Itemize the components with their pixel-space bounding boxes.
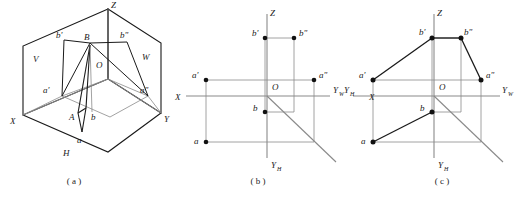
panel-c-projectors xyxy=(373,38,481,142)
panel-c-points xyxy=(371,36,484,145)
panel-b-point-a-prime xyxy=(204,78,209,83)
panel-c-label-a-prime: a' xyxy=(359,70,367,80)
panel-b-label-a: a xyxy=(194,136,199,146)
panel-c-point-b-prime xyxy=(430,36,435,41)
panel-c-label-a: a xyxy=(361,136,366,146)
panel-c-label-Y-H-left-sub: H xyxy=(349,91,355,97)
panel-a-label-b-prime: b' xyxy=(56,30,64,40)
panel-a-label-a-prime: a' xyxy=(43,85,51,95)
panel-c-label-a-double-prime: a" xyxy=(486,70,495,80)
panel-c-label-b: b xyxy=(420,103,425,113)
panel-b-point-a-double-prime xyxy=(312,78,317,83)
panel-c-45-bisector xyxy=(434,96,503,162)
figure-container: Z X Y V W H O B A a b b' b" a' a" xyxy=(0,0,527,199)
panel-b-label-Y-H-group: Y H xyxy=(271,160,282,172)
panel-a-label-X: X xyxy=(9,116,16,126)
panel-a-label-b-double-prime: b" xyxy=(120,30,129,40)
caption-a: ( a ) xyxy=(67,176,82,186)
panel-c-label-Y-H-bottom-group: Y H xyxy=(438,160,449,172)
panel-a-label-a-double-prime: a" xyxy=(140,85,149,95)
panel-c-point-b-double-prime xyxy=(459,36,464,41)
panel-b-label-a-prime: a' xyxy=(192,70,200,80)
panel-b-projectors xyxy=(206,38,314,142)
panel-b-point-b-double-prime xyxy=(292,36,297,41)
panel-b-axes xyxy=(186,14,336,162)
panel-c-label-O: O xyxy=(439,82,446,92)
panel-c-point-a xyxy=(371,140,376,145)
panel-a-label-B: B xyxy=(84,32,90,42)
panel-c-point-a-double-prime xyxy=(479,78,484,83)
panel-b-label-O: O xyxy=(272,82,279,92)
panel-c-projection-segments xyxy=(373,38,481,142)
segment-ab-h-projection xyxy=(78,108,86,132)
panel-c-point-a-prime xyxy=(371,78,376,83)
panel-c-label-Y-H-left-group: Y H xyxy=(344,85,355,97)
panel-a-label-A: A xyxy=(68,112,75,122)
panel-c-label-Y-W-sub: W xyxy=(508,91,514,97)
panel-c-label-Z: Z xyxy=(437,8,443,18)
panel-b-points xyxy=(204,36,317,145)
panel-b-label-b: b xyxy=(253,103,258,113)
panel-a-label-H: H xyxy=(62,148,70,158)
panel-c-seg-b-double-prime-a-double-prime xyxy=(461,38,481,80)
panel-a-label-Z: Z xyxy=(111,0,117,10)
panel-c-diagram: Z X Y W Y H Y H O b' b" a' a" b a xyxy=(344,8,514,172)
panel-b-diagram: Z X Y W Y H O b' b" a' a" b a xyxy=(174,8,345,172)
caption-c: ( c ) xyxy=(435,176,450,186)
panel-b-label-X: X xyxy=(174,92,181,102)
panel-b-point-a xyxy=(204,140,209,145)
panel-b-label-b-double-prime: b" xyxy=(299,28,308,38)
panel-c-seg-a-prime-b-prime xyxy=(373,38,432,80)
panel-b-point-b-prime xyxy=(263,36,268,41)
panel-a-label-a: a xyxy=(77,135,82,145)
panel-c-label-b-double-prime: b" xyxy=(464,27,473,37)
panel-b-label-Y-H-sub: H xyxy=(276,166,282,172)
panel-b-label-a-double-prime: a" xyxy=(319,70,328,80)
panel-c-label-b-prime: b' xyxy=(419,27,427,37)
panel-c-axes xyxy=(353,14,503,162)
panel-b-label-Z: Z xyxy=(270,8,276,18)
ox-axis-line xyxy=(23,79,108,115)
panel-a-label-O: O xyxy=(96,60,103,70)
panel-a-label-W: W xyxy=(142,52,151,62)
caption-b: ( b ) xyxy=(251,176,266,186)
panel-b-45-bisector xyxy=(267,96,336,162)
panel-a-label-V: V xyxy=(33,54,40,64)
panel-a-diagram: Z X Y V W H O B A a b b' b" a' a" xyxy=(9,0,170,158)
panel-b-point-b xyxy=(263,110,268,115)
panel-c-seg-a-b xyxy=(373,112,432,142)
panel-b-label-b-prime: b' xyxy=(252,28,260,38)
panel-c-label-Y-W-group: Y W xyxy=(502,85,514,97)
panel-c-point-b xyxy=(430,110,435,115)
projector-vertical-b xyxy=(90,45,92,112)
panel-a-label-Y: Y xyxy=(164,114,170,124)
panel-c-label-Y-H-bottom-sub: H xyxy=(443,166,449,172)
panel-a-label-b: b xyxy=(91,112,96,122)
panel-c-label-X: X xyxy=(368,92,375,102)
